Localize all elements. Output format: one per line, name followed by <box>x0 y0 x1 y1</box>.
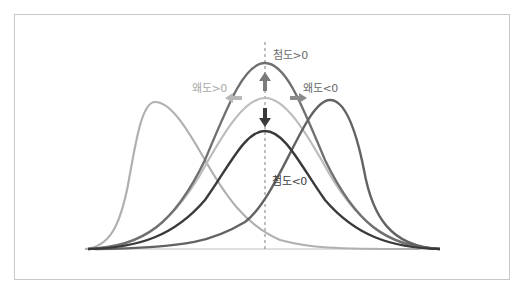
label-kurtosis-positive: 첨도>0 <box>273 46 308 62</box>
curve-skew-positive <box>85 102 420 249</box>
arrow-down-icon <box>259 108 271 127</box>
label-skew-negative: 왜도<0 <box>303 79 338 95</box>
label-skew-positive: 왜도>0 <box>192 79 227 95</box>
distribution-diagram <box>0 0 523 293</box>
arrow-up-icon <box>259 72 271 91</box>
label-kurtosis-negative: 첨도<0 <box>272 172 307 188</box>
